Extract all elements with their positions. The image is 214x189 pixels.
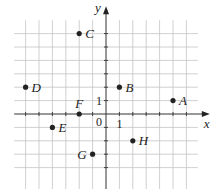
point-label: D — [31, 80, 42, 95]
y-unit-label: 1 — [96, 94, 102, 108]
point-label: G — [77, 147, 87, 162]
point-marker-icon — [117, 85, 122, 90]
point-marker-icon — [77, 31, 82, 36]
point-label: F — [74, 96, 84, 111]
x-axis-label: x — [203, 116, 210, 131]
point-marker-icon — [23, 85, 28, 90]
y-axis-label: y — [93, 0, 101, 15]
x-unit-label: 1 — [116, 117, 122, 131]
coordinate-grid: x y 0 1 1 ABCDEFGH — [0, 0, 214, 189]
point-label: H — [138, 133, 149, 148]
point-marker-icon — [130, 138, 135, 143]
point-label: A — [178, 93, 187, 108]
origin-label: 0 — [96, 115, 102, 129]
points: ABCDEFGH — [23, 26, 187, 162]
point-label: E — [57, 120, 66, 135]
y-axis-arrow-icon — [103, 6, 109, 14]
point-label: B — [125, 80, 133, 95]
point-marker-icon — [50, 125, 55, 130]
point-label: C — [85, 26, 94, 41]
point-marker-icon — [170, 98, 175, 103]
point-marker-icon — [90, 152, 95, 157]
point-marker-icon — [77, 111, 82, 116]
